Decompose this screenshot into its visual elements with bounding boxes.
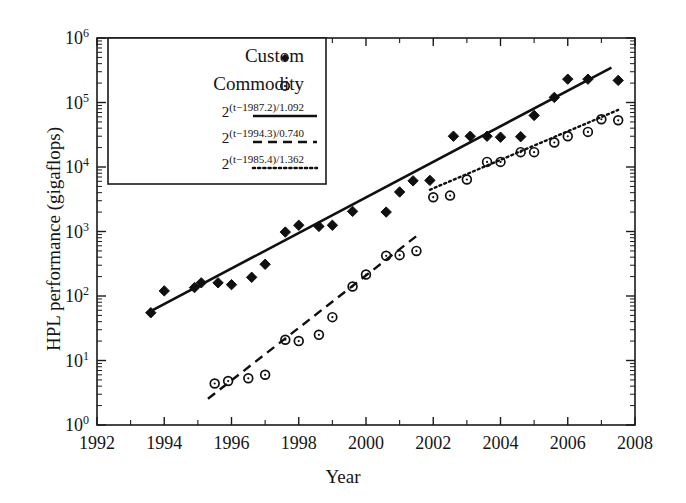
marker-commodity-dot	[449, 195, 451, 197]
marker-commodity-dot	[520, 151, 522, 153]
marker-custom	[381, 207, 391, 217]
marker-commodity-dot	[298, 340, 300, 342]
x-tick-label: 2004	[466, 433, 536, 454]
legend-entry-label: 2(t−1994.3)/0.740	[108, 127, 304, 147]
legend-labels: CustomCommodity2(t−1987.2)/1.0922(t−1994…	[108, 38, 326, 184]
marker-commodity-dot	[331, 316, 333, 318]
hpl-performance-chart: HPL performance (gigaflops) Year 1992199…	[0, 0, 686, 503]
x-axis-title: Year	[0, 466, 686, 488]
marker-custom	[314, 221, 324, 231]
marker-commodity-dot	[385, 255, 387, 257]
marker-commodity-dot	[365, 273, 367, 275]
marker-custom	[280, 227, 290, 237]
marker-commodity-dot	[264, 374, 266, 376]
marker-commodity-dot	[247, 377, 249, 379]
marker-custom	[448, 131, 458, 141]
y-tick-label: 100	[37, 413, 89, 436]
marker-custom	[515, 131, 525, 141]
plot-canvas	[0, 0, 686, 503]
marker-commodity-dot	[432, 196, 434, 198]
legend-entry-label: 2(t−1987.2)/1.092	[108, 101, 304, 121]
marker-commodity-dot	[553, 141, 555, 143]
marker-custom	[394, 187, 404, 197]
y-tick-label: 101	[37, 349, 89, 372]
marker-commodity-dot	[617, 119, 619, 121]
marker-commodity-dot	[284, 339, 286, 341]
marker-custom	[327, 220, 337, 230]
marker-custom	[425, 175, 435, 185]
legend-entry-label: Commodity	[108, 73, 304, 95]
marker-commodity-dot	[351, 285, 353, 287]
marker-commodity-dot	[214, 382, 216, 384]
marker-commodity-dot	[399, 254, 401, 256]
marker-commodity-dot	[567, 135, 569, 137]
marker-custom	[226, 279, 236, 289]
marker-custom	[563, 74, 573, 84]
marker-commodity-dot	[227, 380, 229, 382]
marker-commodity-dot	[499, 161, 501, 163]
marker-custom	[246, 272, 256, 282]
marker-commodity-dot	[486, 161, 488, 163]
x-tick-label: 1998	[264, 433, 334, 454]
marker-commodity-dot	[533, 151, 535, 153]
y-tick-label: 103	[37, 220, 89, 243]
y-tick-label: 102	[37, 284, 89, 307]
marker-commodity-dot	[466, 178, 468, 180]
legend-entry-label: Custom	[108, 45, 304, 67]
marker-commodity-dot	[415, 250, 417, 252]
x-tick-label: 2006	[533, 433, 603, 454]
marker-custom	[213, 278, 223, 288]
marker-custom	[260, 259, 270, 269]
x-tick-label: 1992	[62, 433, 132, 454]
marker-custom	[613, 75, 623, 85]
y-tick-label: 106	[37, 26, 89, 49]
x-tick-label: 1996	[197, 433, 267, 454]
x-tick-label: 2002	[398, 433, 468, 454]
x-tick-label: 2000	[331, 433, 401, 454]
marker-custom	[408, 176, 418, 186]
fit-line-dashed	[208, 233, 420, 398]
marker-custom	[495, 132, 505, 142]
marker-commodity-dot	[318, 334, 320, 336]
y-tick-label: 104	[37, 155, 89, 178]
marker-commodity-dot	[587, 131, 589, 133]
y-tick-label: 105	[37, 91, 89, 114]
legend-entry-label: 2(t−1985.4)/1.362	[108, 153, 304, 173]
x-tick-label: 1994	[129, 433, 199, 454]
marker-custom	[294, 220, 304, 230]
x-tick-label: 2008	[600, 433, 670, 454]
marker-commodity-dot	[600, 118, 602, 120]
marker-custom	[159, 286, 169, 296]
